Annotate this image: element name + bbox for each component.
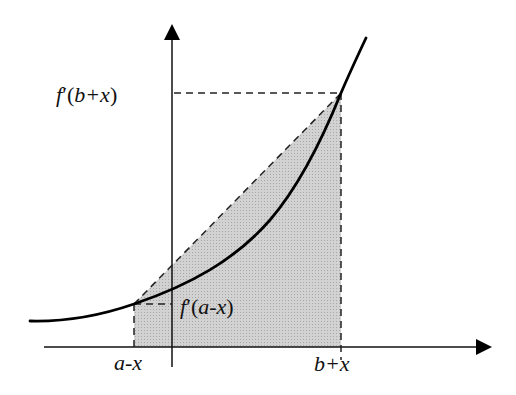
shaded-region <box>134 93 341 347</box>
label-f-prime-b-plus-x: f′(b+x) <box>56 82 117 107</box>
label-b-plus-x: b+x <box>314 351 350 376</box>
y-axis-arrow-icon <box>164 24 180 40</box>
diagram-canvas: f′(b+x) f′(a-x) a-x b+x <box>0 0 516 395</box>
label-a-minus-x: a-x <box>114 350 142 375</box>
x-axis-arrow-icon <box>476 339 492 355</box>
label-f-prime-a-minus-x: f′(a-x) <box>180 294 234 319</box>
